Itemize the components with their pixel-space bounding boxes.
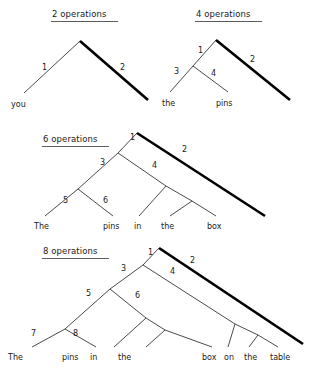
tree-8-word-box: box bbox=[202, 353, 217, 362]
tree-8-edge-label-1: 1 bbox=[148, 248, 153, 257]
tree-8-subedge-on bbox=[228, 324, 235, 347]
tree-6-edge-label-6: 6 bbox=[103, 196, 108, 205]
tree-8-subedge-np2-link bbox=[235, 324, 258, 335]
tree-4-edge-label-1: 1 bbox=[198, 46, 203, 55]
tree-8-edge-8 bbox=[65, 329, 96, 347]
tree-6-subedge-in bbox=[139, 186, 166, 216]
tree-8-word-in: in bbox=[90, 353, 97, 362]
tree-6-subedge-box bbox=[192, 201, 216, 216]
tree-8-edge-3 bbox=[110, 265, 143, 289]
tree-8-subedge-table bbox=[258, 335, 278, 347]
tree-6-word-in: in bbox=[134, 222, 141, 231]
tree-8-edge-label-6: 6 bbox=[135, 291, 140, 300]
tree-6-word-pins: pins bbox=[103, 222, 120, 231]
tree-4-edge-label-2: 2 bbox=[250, 55, 255, 64]
tree-8-subedge-in bbox=[114, 318, 146, 347]
tree-8-word-table: table bbox=[270, 353, 290, 362]
tree-8-word-the-3: the bbox=[244, 353, 257, 362]
tree-4-edge-label-3: 3 bbox=[174, 67, 179, 76]
tree-6-edge-label-1: 1 bbox=[130, 133, 135, 142]
tree-2-edge-label-2: 2 bbox=[120, 63, 125, 72]
tree-4-edge-1 bbox=[193, 40, 216, 66]
tree-6-edge-label-2: 2 bbox=[182, 145, 187, 154]
tree-4-word-the: the bbox=[162, 99, 175, 108]
tree-diagram-canvas: 2 operations 1 2 you 4 operations 1 2 3 … bbox=[0, 0, 315, 375]
tree-8-edge-4 bbox=[143, 265, 235, 324]
tree-6-operations: 6 operations 1 2 3 4 5 6 The pins in the bbox=[33, 133, 265, 231]
tree-8-word-the-1: The bbox=[7, 353, 23, 362]
tree-6-edge-label-5: 5 bbox=[63, 196, 68, 205]
tree-6-word-box: box bbox=[207, 222, 222, 231]
tree-8-word-pins: pins bbox=[62, 353, 79, 362]
tree-8-edge-label-3: 3 bbox=[121, 264, 126, 273]
tree-6-word-the-1: The bbox=[33, 222, 49, 231]
tree-8-edge-7 bbox=[32, 329, 65, 347]
tree-6-edge-3 bbox=[78, 153, 118, 189]
tree-8-subedge-np-link bbox=[146, 318, 165, 330]
tree-8-word-the-2: the bbox=[118, 353, 131, 362]
tree-8-edge-label-7: 7 bbox=[31, 329, 36, 338]
tree-6-word-the-2: the bbox=[161, 222, 174, 231]
tree-8-edge-label-4: 4 bbox=[170, 267, 175, 276]
tree-6-edge-label-3: 3 bbox=[100, 158, 105, 167]
tree-8-subedge-the-2 bbox=[249, 335, 258, 347]
tree-2-edge-2 bbox=[80, 41, 148, 100]
tree-8-edge-label-2: 2 bbox=[190, 256, 195, 265]
tree-6-edge-5 bbox=[45, 189, 78, 216]
tree-6-edge-label-4: 4 bbox=[152, 161, 157, 170]
tree-2-operations-heading: 2 operations bbox=[52, 9, 107, 19]
tree-2-operations: 2 operations 1 2 you bbox=[11, 9, 148, 109]
tree-2-edge-label-1: 1 bbox=[42, 63, 47, 72]
tree-8-word-on: on bbox=[224, 353, 234, 362]
tree-8-edge-2 bbox=[159, 248, 303, 344]
tree-4-operations-heading: 4 operations bbox=[196, 9, 251, 19]
tree-2-word-you: you bbox=[11, 100, 26, 109]
tree-8-operations-heading: 8 operations bbox=[43, 246, 98, 256]
tree-6-operations-heading: 6 operations bbox=[43, 134, 98, 144]
tree-4-word-pins: pins bbox=[216, 99, 233, 108]
tree-4-operations: 4 operations 1 2 3 4 the pins bbox=[162, 9, 290, 108]
tree-6-edge-4 bbox=[118, 153, 166, 186]
tree-6-subedge-the bbox=[170, 201, 192, 216]
tree-8-subedge-the bbox=[146, 330, 165, 347]
tree-2-edge-1 bbox=[24, 41, 80, 93]
tree-8-edge-label-5: 5 bbox=[86, 289, 91, 298]
tree-8-subedge-box bbox=[165, 330, 212, 347]
tree-8-operations: 8 operations 1 2 3 4 5 bbox=[7, 246, 303, 362]
figure-root: 2 operations 1 2 you 4 operations 1 2 3 … bbox=[0, 0, 315, 375]
tree-4-edge-label-4: 4 bbox=[211, 69, 216, 78]
tree-6-edge-2 bbox=[137, 133, 265, 216]
tree-6-subedge-np bbox=[166, 186, 192, 201]
tree-8-edge-label-8: 8 bbox=[73, 329, 78, 338]
tree-8-edge-6 bbox=[110, 289, 146, 318]
